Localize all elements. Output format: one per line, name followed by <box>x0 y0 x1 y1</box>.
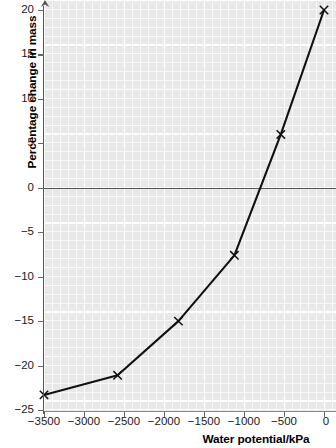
y-tick <box>38 366 44 367</box>
plot-background <box>44 0 336 412</box>
y-tick-label: −20 <box>0 359 34 371</box>
major-gridlines <box>44 0 336 412</box>
x-axis-title: Water potential/kPa <box>176 432 336 446</box>
y-tick <box>38 321 44 322</box>
y-tick <box>38 277 44 278</box>
y-tick-label: −5 <box>0 225 34 237</box>
x-axis-line <box>44 411 336 412</box>
zero-reference-line <box>44 188 336 189</box>
y-tick-label: −25 <box>0 403 34 415</box>
y-axis-title: Percentage change in mass <box>25 0 39 212</box>
minor-gridlines <box>44 0 336 412</box>
y-axis-line <box>43 6 44 414</box>
x-tick-label: 0 <box>296 415 336 427</box>
y-tick-label: −10 <box>0 270 34 282</box>
y-tick <box>38 232 44 233</box>
y-tick-label: −15 <box>0 314 34 326</box>
chart-root: 20 15 10 5 0 −5 −10 −15 −20 −25 −3500 −3… <box>0 0 336 448</box>
